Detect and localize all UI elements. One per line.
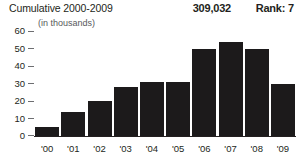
bar-slot[interactable] (34, 28, 60, 136)
x-axis-tick-label: '06 (191, 142, 217, 160)
plot-area: 0102030405060 (0, 28, 298, 140)
bar[interactable] (219, 42, 243, 136)
bar[interactable] (61, 112, 85, 136)
chart-header: Cumulative 2000-2009 309,032 Rank: 7 (0, 0, 298, 17)
x-axis-tick-label: '05 (165, 142, 191, 160)
y-axis-tick-label: 60 (14, 25, 25, 37)
bar-slot[interactable] (139, 28, 165, 136)
bar-slot[interactable] (86, 28, 112, 136)
x-axis-baseline (34, 136, 296, 138)
x-axis-tick-label: '00 (34, 142, 60, 160)
bar[interactable] (114, 87, 138, 136)
total-value: 309,032 (193, 1, 231, 15)
x-axis: '00'01'02'03'04'05'06'07'08'09 (34, 142, 296, 160)
bar-slot[interactable] (244, 28, 270, 136)
x-axis-tick-label: '07 (217, 142, 243, 160)
y-axis-tick: 40 (14, 60, 34, 72)
y-axis-tick: 10 (14, 113, 34, 125)
bar-slot[interactable] (217, 28, 243, 136)
x-axis-tick-label: '01 (60, 142, 86, 160)
y-axis-tick-label: 40 (14, 60, 25, 72)
bar[interactable] (140, 82, 164, 136)
cumulative-bar-chart-widget: Cumulative 2000-2009 309,032 Rank: 7 (in… (0, 0, 298, 163)
x-axis-tick-label: '03 (113, 142, 139, 160)
bar[interactable] (271, 84, 295, 136)
y-axis-tick: 50 (14, 43, 34, 55)
x-axis-tick-label: '02 (86, 142, 112, 160)
x-axis-tick-label: '04 (139, 142, 165, 160)
bar-slot[interactable] (165, 28, 191, 136)
rank-badge: Rank: 7 (256, 1, 294, 15)
bar-slot[interactable] (60, 28, 86, 136)
y-axis-tick-label: 0 (20, 130, 25, 142)
x-axis-tick-label: '09 (270, 142, 296, 160)
y-axis-tick: 60 (14, 25, 34, 37)
bar[interactable] (192, 49, 216, 136)
bar[interactable] (88, 101, 112, 136)
bar[interactable] (166, 82, 190, 136)
bar[interactable] (245, 49, 269, 136)
y-axis-tick-label: 20 (14, 95, 25, 107)
y-axis-tick: 30 (14, 78, 34, 90)
bar-slot[interactable] (270, 28, 296, 136)
x-axis-tick-label: '08 (244, 142, 270, 160)
bar-slot[interactable] (191, 28, 217, 136)
y-axis-tick-label: 50 (14, 43, 25, 55)
y-axis-tick: 20 (14, 95, 34, 107)
bar-slot[interactable] (113, 28, 139, 136)
y-axis-tick-label: 10 (14, 113, 25, 125)
y-axis-tick-label: 30 (14, 78, 25, 90)
bar-series (34, 28, 296, 136)
y-axis-tick: 0 (20, 130, 34, 142)
page-title: Cumulative 2000-2009 (9, 1, 113, 15)
y-axis: 0102030405060 (0, 28, 34, 140)
